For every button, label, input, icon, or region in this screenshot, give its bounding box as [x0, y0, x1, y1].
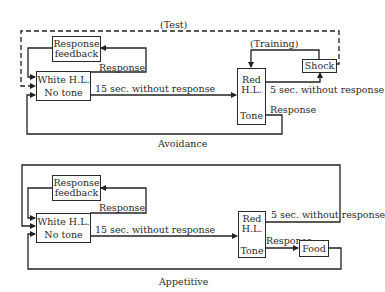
- red-box-2-line2: H.L.: [239, 224, 265, 234]
- red-response-label: Response: [270, 105, 316, 115]
- response-edge-label-2: Response: [99, 203, 145, 213]
- response-feedback-box: Response feedback: [52, 36, 101, 62]
- red-hl-box-2: Red H.L. Tone: [238, 211, 266, 258]
- fifteen-sec-label-2: 15 sec. without response: [95, 225, 215, 235]
- feedback-box-2-line2: feedback: [53, 188, 100, 198]
- shock-box: Shock: [302, 59, 337, 73]
- white-hl-box: White H.L. No tone: [36, 71, 91, 101]
- feedback-box-line2: feedback: [53, 49, 100, 59]
- food-box: Food: [299, 240, 329, 257]
- five-sec-label-2: 5 sec. without response: [271, 210, 385, 220]
- red-to-shock-arrow: [265, 73, 320, 82]
- five-sec-label: 5 sec. without response: [270, 85, 384, 95]
- red-hl-box: Red H.L. Tone: [237, 68, 266, 125]
- response-feedback-box-2: Response feedback: [52, 175, 101, 201]
- avoidance-caption: Avoidance: [158, 139, 207, 149]
- red-box-line2: H.L.: [238, 85, 265, 95]
- white-hl-box-2: White H.L. No tone: [36, 213, 91, 243]
- red-box-line3: Tone: [238, 111, 265, 121]
- test-label: (Test): [160, 20, 187, 30]
- fifteen-sec-label: 15 sec. without response: [95, 84, 215, 94]
- appetitive-caption: Appetitive: [159, 277, 208, 287]
- white-box-line1: White H.L.: [37, 74, 90, 86]
- white-box-line2: No tone: [37, 86, 90, 100]
- white-box-2-line1: White H.L.: [37, 216, 90, 228]
- training-label: (Training): [250, 39, 298, 49]
- response-edge-label: Response: [99, 63, 145, 73]
- food-label: Food: [300, 244, 328, 254]
- red-box-2-line3: Tone: [239, 246, 265, 256]
- white-box-2-line2: No tone: [37, 228, 90, 242]
- shock-label: Shock: [303, 61, 336, 71]
